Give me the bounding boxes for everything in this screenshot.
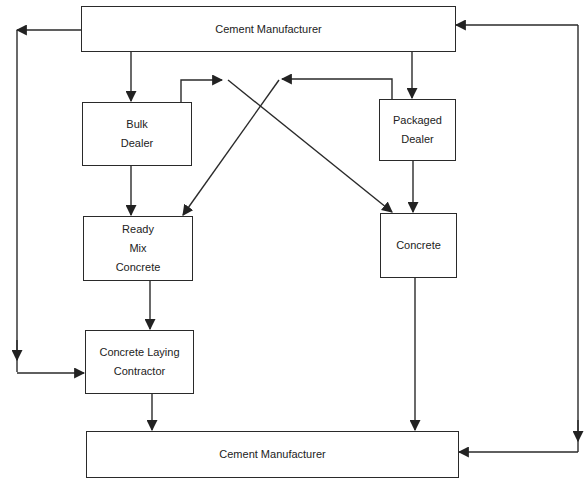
flow-diagram: Cement Manufacturer Bulk Dealer Packaged… [0,0,587,484]
node-concrete: Concrete [380,213,457,278]
node-bulk-dealer: Bulk Dealer [82,102,192,166]
node-label: Dealer [121,134,153,153]
arrow-bulk-to-concrete [228,80,392,212]
node-ready-mix-concrete: Ready Mix Concrete [83,216,193,281]
node-label: Bulk [126,115,147,134]
arrow-bulk-elbow [181,80,222,102]
node-label: Concrete Laying [99,343,179,362]
node-label: Contractor [114,362,165,381]
node-packaged-dealer: Packaged Dealer [379,99,456,161]
node-cement-manufacturer-top: Cement Manufacturer [81,6,456,52]
arrow-packaged-elbow [282,79,392,99]
node-label: Ready [122,220,154,239]
node-concrete-laying-contractor: Concrete Laying Contractor [85,330,194,394]
node-label: Mix [129,239,146,258]
node-label: Cement Manufacturer [215,20,321,39]
node-label: Packaged Dealer [380,111,455,149]
arrow-packaged-to-readymix [183,80,279,215]
node-label: Concrete [396,236,441,255]
node-label: Concrete [116,258,161,277]
node-cement-manufacturer-bottom: Cement Manufacturer [86,431,459,478]
node-label: Cement Manufacturer [219,445,325,464]
